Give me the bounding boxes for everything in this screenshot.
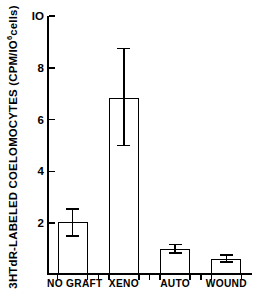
y-tick-mark	[49, 171, 55, 173]
error-bar-cap-lower	[220, 261, 233, 263]
y-axis-spine	[47, 16, 49, 275]
error-bar-cap-lower	[117, 145, 130, 147]
error-bar-line	[123, 48, 125, 145]
y-tick-label: 6	[38, 114, 44, 126]
y-tick-group: 6	[47, 119, 55, 121]
error-bar-cap-upper	[66, 208, 79, 210]
y-axis-title-superscript: 6	[5, 36, 14, 40]
y-tick-group: 4	[47, 171, 55, 173]
y-tick-mark	[49, 119, 55, 121]
y-tick-label: 4	[38, 165, 44, 177]
y-axis-title-post: cells)	[7, 5, 19, 35]
chart-figure: 3HTdR-LABELED COELOMOCYTES (CPM/IO6cells…	[0, 0, 258, 294]
plot-area: 2468IO NO GRAFTXENOAUTOWOUND	[47, 16, 252, 275]
error-bar-cap-upper	[169, 244, 182, 246]
error-bar-cap-upper	[220, 254, 233, 256]
y-axis-title-pre: 3HTdR-LABELED COELOMOCYTES (CPM/IO	[7, 40, 19, 289]
error-bar-cap-upper	[117, 48, 130, 50]
y-tick-group: IO	[47, 15, 55, 17]
y-axis-title: 3HTdR-LABELED COELOMOCYTES (CPM/IO6cells…	[7, 5, 19, 288]
y-tick-mark	[49, 15, 55, 17]
error-bar-line	[72, 209, 74, 236]
y-axis-title-container: 3HTdR-LABELED COELOMOCYTES (CPM/IO6cells…	[0, 0, 26, 294]
y-tick-label: 2	[38, 217, 44, 229]
error-bar-cap-lower	[66, 235, 79, 237]
x-axis-category-label: NO GRAFT	[47, 278, 98, 289]
y-tick-group: 2	[47, 222, 55, 224]
y-tick-mark	[49, 67, 55, 69]
x-axis-category-label: AUTO	[150, 278, 201, 289]
x-axis-category-label: XENO	[98, 278, 149, 289]
y-tick-group: 8	[47, 67, 55, 69]
x-axis-category-label: WOUND	[201, 278, 252, 289]
y-tick-mark	[49, 222, 55, 224]
error-bar-cap-lower	[169, 252, 182, 254]
y-tick-label: IO	[32, 10, 44, 22]
y-tick-label: 8	[38, 62, 44, 74]
